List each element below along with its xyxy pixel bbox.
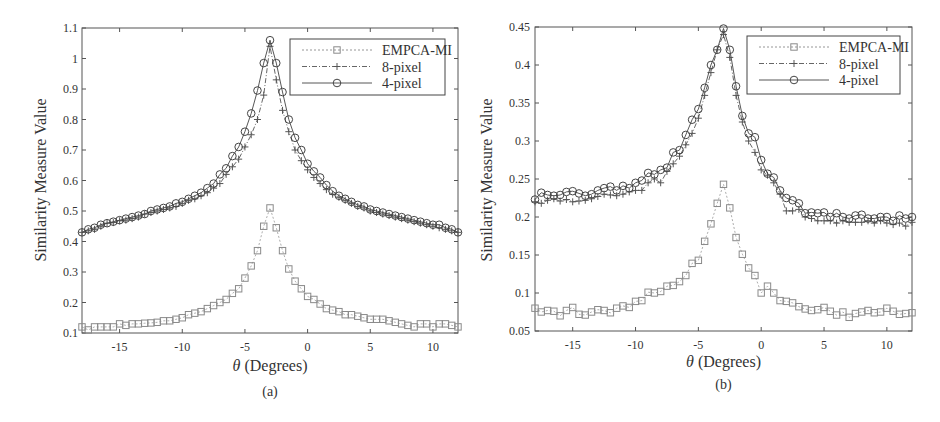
legend-label: 8-pixel xyxy=(382,60,422,75)
x-tick-label: 5 xyxy=(821,338,827,352)
series-line xyxy=(82,208,458,330)
x-tick-label: 10 xyxy=(881,338,893,352)
square-marker xyxy=(405,322,411,328)
legend-label: 8-pixel xyxy=(839,57,879,72)
y-tick-label: 0.15 xyxy=(509,248,530,262)
square-marker xyxy=(355,313,361,319)
square-marker xyxy=(123,322,129,328)
plus-marker xyxy=(607,191,614,198)
plus-marker xyxy=(569,198,576,205)
plus-marker xyxy=(563,196,570,203)
legend-label: 4-pixel xyxy=(382,76,422,91)
square-marker xyxy=(821,304,827,310)
x-axis-label: θ (Degrees) xyxy=(233,357,308,375)
x-tick-label: 0 xyxy=(305,340,311,354)
square-marker xyxy=(286,266,292,272)
y-axis-label: Similarity Measure Value xyxy=(32,98,50,261)
square-marker xyxy=(423,321,429,327)
plus-marker xyxy=(726,54,733,61)
square-marker xyxy=(708,221,714,227)
x-tick-label: 0 xyxy=(758,338,764,352)
x-tick-label: -15 xyxy=(112,340,128,354)
y-tick-label: 0.2 xyxy=(515,210,530,224)
square-marker xyxy=(279,247,285,253)
y-tick-label: 0.35 xyxy=(509,96,530,110)
y-tick-label: 0.5 xyxy=(63,204,78,218)
plus-marker xyxy=(833,220,840,227)
plus-marker xyxy=(651,176,658,183)
series-empca-mi xyxy=(532,181,915,320)
square-marker xyxy=(745,265,751,271)
y-axis-label: Similarity Measure Value xyxy=(478,98,496,261)
legend: EMPCA-MI8-pixel4-pixel xyxy=(747,36,909,94)
x-tick-label: 5 xyxy=(367,340,373,354)
y-tick-label: 0.3 xyxy=(63,265,78,279)
y-tick-label: 0.4 xyxy=(63,235,78,249)
square-marker xyxy=(827,308,833,314)
series-line xyxy=(535,184,912,317)
panel-caption: (a) xyxy=(262,384,278,400)
square-marker xyxy=(859,309,865,315)
x-tick-label: -10 xyxy=(174,340,190,354)
plus-marker xyxy=(285,128,292,135)
x-axis-label: θ (Degrees) xyxy=(686,353,761,371)
square-marker xyxy=(442,321,448,327)
square-marker xyxy=(204,305,210,311)
square-marker xyxy=(311,296,317,302)
square-marker xyxy=(273,225,279,231)
square-marker xyxy=(223,296,229,302)
plus-marker xyxy=(260,92,267,99)
square-marker xyxy=(323,305,329,311)
square-marker xyxy=(179,315,185,321)
series-empca-mi xyxy=(79,205,461,333)
y-tick-label: 0.25 xyxy=(509,172,530,186)
square-marker xyxy=(436,321,442,327)
square-marker xyxy=(85,327,91,333)
x-tick-label: -5 xyxy=(240,340,250,354)
y-tick-label: 0.6 xyxy=(63,174,78,188)
plus-marker xyxy=(783,207,790,214)
plus-marker xyxy=(254,116,261,123)
plus-marker xyxy=(871,220,878,227)
plus-marker xyxy=(575,198,582,205)
panel-caption: (b) xyxy=(715,377,732,393)
x-tick-label: -5 xyxy=(693,338,703,352)
legend-label: EMPCA-MI xyxy=(382,43,452,58)
square-marker xyxy=(261,223,267,229)
y-tick-label: 0.45 xyxy=(509,20,530,34)
y-tick-label: 0.4 xyxy=(515,58,530,72)
legend: EMPCA-MI8-pixel4-pixel xyxy=(290,39,452,95)
plus-marker xyxy=(789,207,796,214)
plus-marker xyxy=(279,107,286,114)
square-marker xyxy=(645,289,651,295)
y-tick-label: 0.1 xyxy=(515,286,530,300)
y-tick-label: 0.9 xyxy=(63,82,78,96)
y-tick-label: 0.3 xyxy=(515,134,530,148)
square-marker xyxy=(336,308,342,314)
plus-marker xyxy=(273,76,280,83)
chart-panel-b: -15-10-505100.050.10.150.20.250.30.350.4… xyxy=(478,20,916,393)
x-tick-label: -15 xyxy=(565,338,581,352)
square-marker xyxy=(802,306,808,312)
plus-marker xyxy=(751,149,758,156)
plus-marker xyxy=(657,179,664,186)
square-marker xyxy=(620,303,626,309)
plus-marker xyxy=(902,223,909,230)
chart-panel-a: -15-10-505100.10.20.30.40.50.60.70.80.91… xyxy=(32,21,462,400)
y-tick-label: 0.7 xyxy=(63,143,78,157)
plus-marker xyxy=(582,197,589,204)
square-marker xyxy=(317,301,323,307)
x-tick-label: -10 xyxy=(628,338,644,352)
x-tick-label: 10 xyxy=(427,340,439,354)
square-marker xyxy=(417,321,423,327)
legend-label: EMPCA-MI xyxy=(839,40,909,55)
square-marker xyxy=(198,308,204,314)
square-marker xyxy=(267,205,273,211)
square-marker xyxy=(538,309,544,315)
figure: -15-10-505100.10.20.30.40.50.60.70.80.91… xyxy=(0,0,940,422)
y-tick-label: 0.05 xyxy=(509,324,530,338)
y-tick-label: 0.8 xyxy=(63,113,78,127)
y-tick-label: 1 xyxy=(72,52,78,66)
legend-label: 4-pixel xyxy=(839,73,879,88)
square-marker xyxy=(235,286,241,292)
